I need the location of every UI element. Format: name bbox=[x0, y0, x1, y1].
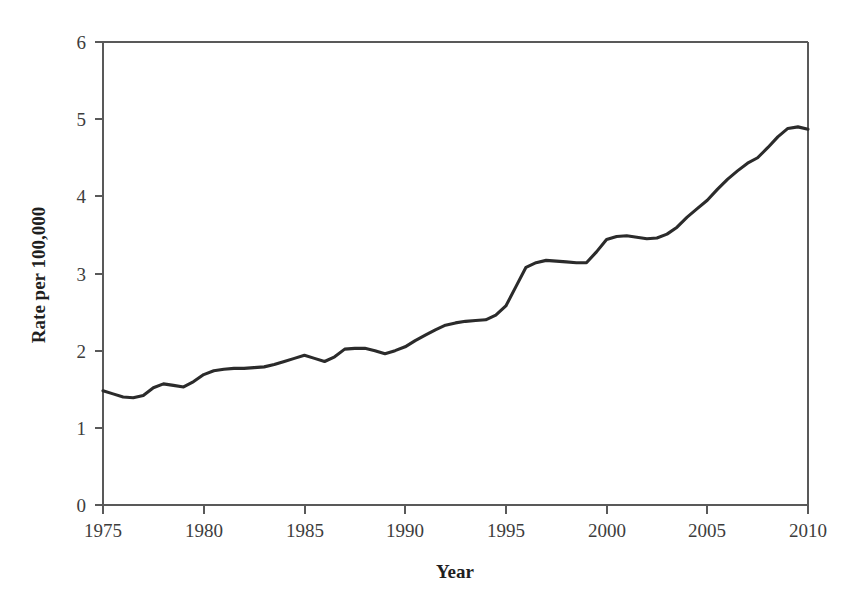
x-tick-label: 2005 bbox=[688, 520, 726, 541]
x-axis-tick-labels: 1975 1980 1985 1990 1995 2000 2005 2010 bbox=[84, 520, 827, 541]
y-tick-label: 0 bbox=[77, 495, 87, 516]
x-tick-label: 1985 bbox=[286, 520, 324, 541]
y-axis-title: Rate per 100,000 bbox=[28, 207, 49, 343]
y-tick-label: 6 bbox=[77, 32, 87, 53]
y-tick-label: 4 bbox=[77, 186, 87, 207]
x-tick-label: 2010 bbox=[789, 520, 827, 541]
y-axis-ticks bbox=[95, 42, 103, 505]
y-tick-label: 5 bbox=[77, 109, 87, 130]
chart-figure: 6 5 4 3 2 1 0 1975 1980 1985 1990 1995 2 bbox=[0, 0, 859, 613]
x-tick-label: 1980 bbox=[185, 520, 223, 541]
line-chart: 6 5 4 3 2 1 0 1975 1980 1985 1990 1995 2 bbox=[0, 0, 859, 613]
x-axis-title: Year bbox=[436, 561, 475, 582]
y-tick-label: 3 bbox=[77, 264, 87, 285]
x-tick-label: 1975 bbox=[84, 520, 122, 541]
x-axis-ticks bbox=[103, 505, 808, 514]
data-series-line bbox=[103, 127, 808, 398]
y-tick-label: 1 bbox=[77, 418, 87, 439]
x-tick-label: 2000 bbox=[588, 520, 626, 541]
y-tick-label: 2 bbox=[77, 341, 87, 362]
x-tick-label: 1995 bbox=[487, 520, 525, 541]
x-tick-label: 1990 bbox=[386, 520, 424, 541]
plot-axes bbox=[103, 42, 808, 505]
y-axis-tick-labels: 6 5 4 3 2 1 0 bbox=[77, 32, 87, 516]
